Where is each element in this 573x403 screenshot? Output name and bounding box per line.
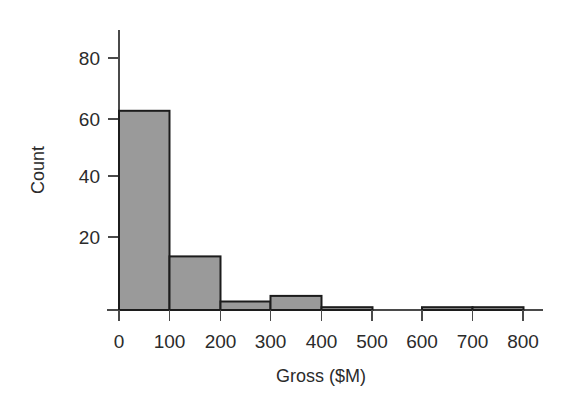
histogram-bars <box>119 111 524 310</box>
x-tick-label-200: 200 <box>205 331 237 352</box>
chart-canvas: 80 60 40 20 Count 0 <box>0 0 573 403</box>
y-tick-label-60: 60 <box>79 109 100 130</box>
x-tick-label-100: 100 <box>154 331 186 352</box>
x-tick-label-600: 600 <box>406 331 438 352</box>
x-axis-title: Gross ($M) <box>276 366 366 386</box>
bar-bin-300-400 <box>271 296 322 310</box>
x-tick-label-0: 0 <box>114 331 125 352</box>
bar-bin-200-300 <box>221 302 271 311</box>
bar-bin-400-500 <box>322 307 373 310</box>
x-tick-label-300: 300 <box>255 331 287 352</box>
bar-bin-600-700 <box>422 307 473 310</box>
bar-bin-700-800 <box>473 307 524 310</box>
histogram-chart: 80 60 40 20 Count 0 <box>0 0 573 403</box>
y-tick-label-80: 80 <box>79 48 100 69</box>
x-tick-label-700: 700 <box>457 331 489 352</box>
y-tick-label-40: 40 <box>79 166 100 187</box>
y-axis-ticks <box>108 58 119 237</box>
y-axis-title: Count <box>28 146 48 194</box>
x-tick-label-800: 800 <box>507 331 539 352</box>
x-axis-ticks <box>119 310 523 321</box>
x-tick-label-500: 500 <box>356 331 388 352</box>
x-tick-label-400: 400 <box>306 331 338 352</box>
bar-bin-0-100 <box>119 111 170 310</box>
y-tick-label-20: 20 <box>79 227 100 248</box>
bar-bin-100-200 <box>170 256 221 310</box>
